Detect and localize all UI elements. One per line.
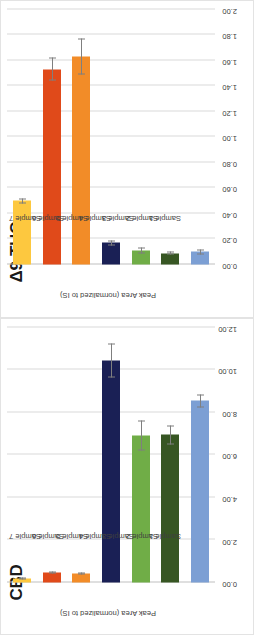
axis-tick-label: 10.00 — [218, 367, 237, 376]
error-cap-high — [138, 421, 145, 422]
axis-tick-label: 2.00 — [222, 537, 237, 546]
axis-tick-label: 0.00 — [222, 579, 237, 588]
error-cap-low — [108, 376, 115, 377]
axis-tick-label: 0.60 — [222, 185, 237, 194]
plot-area-cbd: Sample 1Sample 2Sample 3Sample 4Sample 5… — [7, 327, 215, 582]
error-cap-high — [78, 39, 85, 40]
y-axis-title-wrap-cbd: Peak Area (normalized to IS) — [1, 606, 215, 620]
bar-5 — [72, 57, 90, 265]
axis-tick-label: 0.20 — [222, 236, 237, 245]
error-cap-high — [49, 571, 56, 572]
axis-tick-label: 1.00 — [222, 134, 237, 143]
error-cap-low — [197, 253, 204, 254]
bar-4 — [102, 360, 120, 582]
bar-row — [161, 10, 179, 265]
error-cap-high — [167, 252, 174, 253]
error-cap-low — [197, 406, 204, 407]
bar-row — [161, 327, 179, 582]
bar-1 — [191, 400, 209, 582]
error-cap-low — [78, 74, 85, 75]
value-axis-ticks-cbd: 0.002.004.006.008.0010.0012.00 — [215, 327, 237, 582]
axis-tick-label: 6.00 — [222, 452, 237, 461]
axis-tick-label: 0.00 — [222, 262, 237, 271]
error-bar — [22, 577, 23, 579]
error-cap-high — [19, 577, 26, 578]
error-bar — [81, 572, 82, 574]
error-bar — [111, 343, 112, 377]
bar-6 — [43, 69, 61, 264]
y-axis-title-wrap-thc: Peak Area (normalized to IS) — [1, 289, 215, 303]
bar-row — [13, 327, 31, 582]
error-cap-high — [78, 572, 85, 573]
error-bar — [52, 58, 53, 81]
error-cap-low — [19, 202, 26, 203]
error-cap-high — [197, 249, 204, 250]
error-cap-high — [49, 58, 56, 59]
axis-tick-label: 4.00 — [222, 494, 237, 503]
bar-4 — [102, 243, 120, 265]
axis-tick-label: 8.00 — [222, 409, 237, 418]
error-cap-low — [167, 443, 174, 444]
bar-row — [72, 327, 90, 582]
chart-panel-thc: Δ9-THC Peak Area (normalized to IS) Samp… — [0, 0, 254, 318]
bar-row — [191, 10, 209, 265]
chart-rotated-canvas-cbd: CBD Peak Area (normalized to IS) Sample … — [1, 319, 253, 634]
axis-tick-label: 2.00 — [222, 7, 237, 16]
axis-tick-label: 12.00 — [218, 324, 237, 333]
error-bar — [170, 425, 171, 444]
error-cap-low — [167, 253, 174, 254]
error-bar — [200, 394, 201, 407]
error-cap-low — [138, 252, 145, 253]
bar-row — [72, 10, 90, 265]
bar-chart-thc: Δ9-THC Peak Area (normalized to IS) Samp… — [1, 2, 253, 317]
axis-tick-label: 0.80 — [222, 160, 237, 169]
error-cap-high — [138, 248, 145, 249]
error-bar — [111, 240, 112, 245]
bar-2 — [161, 253, 179, 264]
plot-area-thc: Sample 1Sample 2Sample 3Sample 4Sample 5… — [7, 10, 215, 265]
error-cap-high — [197, 394, 204, 395]
axis-tick-label: 1.60 — [222, 58, 237, 67]
error-cap-low — [138, 449, 145, 450]
bar-row — [191, 327, 209, 582]
error-cap-high — [108, 240, 115, 241]
bar-row — [102, 10, 120, 265]
y-axis-title-thc: Peak Area (normalized to IS) — [60, 291, 156, 300]
axis-tick-label: 1.40 — [222, 83, 237, 92]
bar-chart-cbd: CBD Peak Area (normalized to IS) Sample … — [1, 319, 253, 634]
chart-rotated-canvas-thc: Δ9-THC Peak Area (normalized to IS) Samp… — [1, 2, 253, 317]
bar-row — [132, 327, 150, 582]
error-cap-low — [108, 244, 115, 245]
bar-row — [43, 327, 61, 582]
error-bar — [22, 198, 23, 203]
error-bar — [52, 571, 53, 573]
bar-3 — [132, 435, 150, 582]
error-cap-low — [49, 80, 56, 81]
value-axis-ticks-thc: 0.000.200.400.600.801.001.201.401.601.80… — [215, 10, 237, 265]
bars-thc — [7, 10, 215, 265]
error-bar — [200, 249, 201, 254]
error-bar — [170, 252, 171, 255]
axis-tick-label: 0.40 — [222, 211, 237, 220]
error-cap-high — [167, 425, 174, 426]
bar-row — [102, 327, 120, 582]
axis-tick-label: 1.80 — [222, 32, 237, 41]
error-bar — [81, 39, 82, 75]
bar-row — [43, 10, 61, 265]
error-cap-high — [108, 343, 115, 344]
chart-panel-cbd: CBD Peak Area (normalized to IS) Sample … — [0, 318, 254, 635]
error-cap-high — [19, 198, 26, 199]
bar-7 — [13, 201, 31, 265]
bars-cbd — [7, 327, 215, 582]
y-axis-title-cbd: Peak Area (normalized to IS) — [60, 609, 156, 618]
bar-row — [13, 10, 31, 265]
error-bar — [141, 421, 142, 451]
bar-2 — [161, 434, 179, 582]
axis-tick-label: 1.20 — [222, 109, 237, 118]
error-bar — [141, 248, 142, 253]
bar-row — [132, 10, 150, 265]
